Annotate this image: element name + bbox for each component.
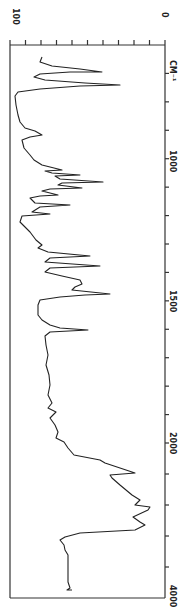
spectrum-line xyxy=(15,57,150,590)
x-tick-label-1000: 1000 xyxy=(168,150,177,173)
x-tick-label-2000: 2000 xyxy=(168,432,177,455)
x-tick-label-1500: 1500 xyxy=(168,290,177,313)
x-axis-unit-label: CM⁻¹ xyxy=(168,60,177,82)
ir-spectrum-chart: 100 0 CM⁻¹ 1000 1500 2000 4000 xyxy=(0,0,192,611)
y-axis-label-0: 0 xyxy=(160,12,169,18)
x-tick-label-4000: 4000 xyxy=(168,585,177,608)
y-axis-label-100: 100 xyxy=(11,8,20,25)
plot-axes xyxy=(10,40,169,598)
